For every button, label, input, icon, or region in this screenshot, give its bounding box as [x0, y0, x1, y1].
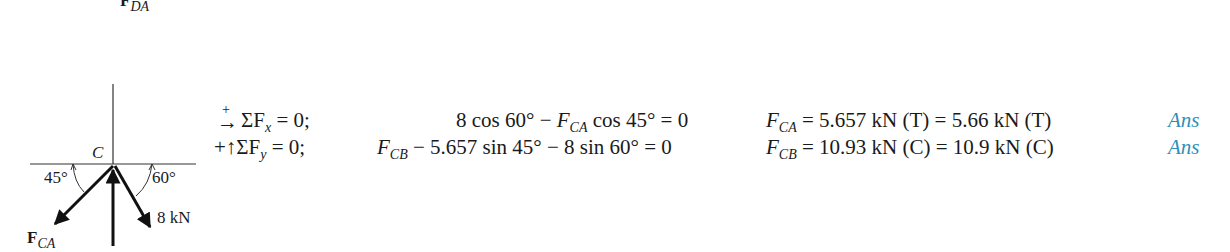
angle-label-left: 45°: [44, 168, 68, 188]
force-label-ca: FCA: [27, 228, 55, 252]
equation-fy-expression: FCB − 5.657 sin 45° − 8 sin 60° = 0: [377, 135, 672, 167]
equation-fy-result: FCB = 10.93 kN (C) = 10.9 kN (C): [766, 135, 1054, 167]
answer-marker-2: Ans: [1168, 135, 1200, 159]
top-force-label: FDA: [120, 0, 149, 15]
node-label: C: [92, 143, 103, 163]
force-label-8kn: 8 kN: [157, 208, 191, 228]
equation-sum-fy: +↑ΣFy = 0;: [214, 135, 305, 167]
force-8kn-arrow: [115, 166, 150, 227]
direction-right-plus-icon: +→: [217, 108, 241, 132]
angle-label-right: 60°: [152, 168, 176, 188]
answer-marker-1: Ans: [1168, 108, 1200, 132]
